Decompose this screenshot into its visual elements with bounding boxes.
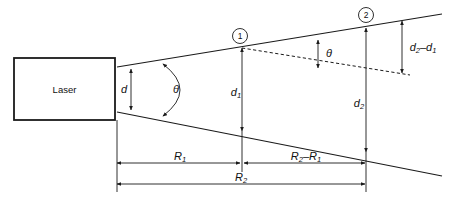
label-d1-subscript: 1 [237,91,241,100]
label-rd-second-sub: 1 [317,155,321,164]
label-diameter-2: d2 [354,97,365,111]
label-R1-base: R [174,150,182,162]
label-d2-subscript: 2 [359,102,365,111]
label-angle-at-point-1: θ [326,47,332,59]
marker-1-label: 1 [238,31,243,41]
label-diameter-difference: d2–d1 [410,41,437,55]
label-divergence-angle: θ [173,83,179,95]
label-dd-second-sub: 1 [432,46,436,55]
label-aperture-diameter: d [121,83,128,95]
label-diameter-1: d1 [231,86,241,100]
label-rd-first: R [291,150,299,162]
label-range-2: R2 [235,171,248,185]
upper-beam-line [117,14,442,67]
label-range-1: R1 [174,150,186,164]
label-R1-subscript: 1 [182,155,186,164]
marker-2-label: 2 [364,10,369,20]
diagram-canvas: Laser d θ 1 2 d1 θ d2 [0,0,450,201]
laser-divergence-diagram: Laser d θ 1 2 d1 θ d2 [0,0,450,201]
lower-beam-line [117,112,442,176]
laser-label: Laser [53,84,77,95]
label-rd-second: R [309,150,317,162]
label-R2-subscript: 2 [242,176,248,185]
label-range-delta: R2–R1 [291,150,321,164]
label-R2-base: R [235,171,243,183]
